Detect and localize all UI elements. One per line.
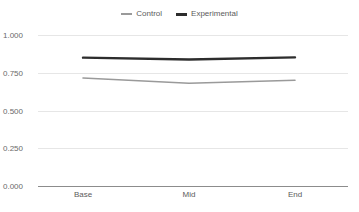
legend-item-label: Experimental — [191, 9, 238, 19]
y-tick-label: 0.750 — [0, 69, 23, 78]
legend-item-label: Control — [136, 9, 162, 19]
y-tick-label: 1.000 — [0, 31, 23, 40]
x-tick-label: Base — [74, 190, 92, 200]
series-line-control — [83, 78, 295, 83]
series-line-experimental — [83, 57, 295, 59]
line-chart: Control Experimental 1.000 0.750 0.500 0… — [0, 0, 359, 212]
legend-item-control[interactable]: Control — [121, 9, 162, 19]
chart-legend: Control Experimental — [0, 7, 359, 21]
x-axis-line — [38, 186, 348, 187]
x-axis-tick-labels: Base Mid End — [38, 190, 348, 204]
y-tick-label: 0.500 — [0, 107, 23, 116]
legend-line-swatch-icon — [176, 13, 187, 16]
x-tick-label: End — [288, 190, 302, 200]
x-tick-label: Mid — [183, 190, 196, 200]
series-layer — [38, 35, 348, 186]
legend-item-experimental[interactable]: Experimental — [176, 9, 238, 19]
y-tick-label: 0.000 — [0, 182, 23, 191]
y-tick-label: 0.250 — [0, 144, 23, 153]
legend-line-swatch-icon — [121, 13, 132, 15]
